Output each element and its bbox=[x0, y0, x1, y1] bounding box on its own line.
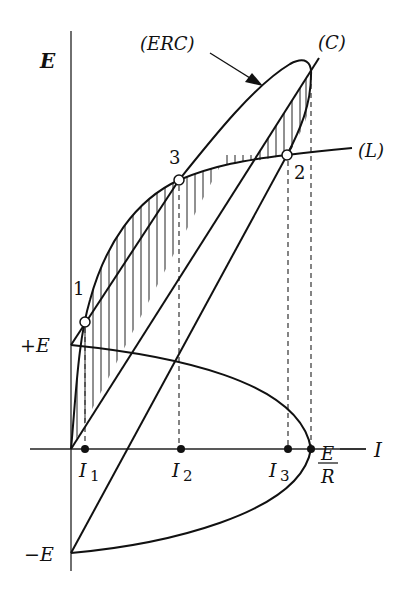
erc-label: (ERC) bbox=[140, 33, 195, 54]
svg-text:I: I bbox=[268, 459, 277, 481]
i3-dot bbox=[284, 445, 292, 453]
svg-text:I: I bbox=[78, 459, 87, 481]
point-2-label: 2 bbox=[294, 162, 305, 183]
svg-text:I: I bbox=[171, 459, 180, 481]
diagram-canvas: E I (ERC) (C) (L) 1 3 2 +E −E I 1 I 2 I … bbox=[0, 0, 407, 592]
i1-label: I 1 bbox=[78, 459, 100, 485]
point-1-label: 1 bbox=[73, 278, 84, 299]
i2-dot bbox=[177, 445, 185, 453]
svg-text:E: E bbox=[320, 443, 334, 464]
svg-text:2: 2 bbox=[183, 467, 193, 485]
svg-text:3: 3 bbox=[280, 467, 290, 485]
y-axis-label: E bbox=[39, 49, 56, 73]
x-axis-label: I bbox=[373, 438, 383, 462]
svg-text:R: R bbox=[320, 466, 335, 487]
point-2-marker bbox=[282, 150, 292, 160]
c-label: (C) bbox=[318, 32, 346, 53]
l-label: (L) bbox=[358, 140, 384, 161]
erc-arrow bbox=[210, 53, 263, 86]
i1-dot bbox=[81, 445, 89, 453]
i3-label: I 3 bbox=[268, 459, 290, 485]
curve-erc bbox=[179, 60, 311, 180]
svg-text:1: 1 bbox=[90, 467, 100, 485]
er-dot bbox=[307, 445, 315, 453]
hatched-region-left bbox=[77, 150, 251, 460]
point-1-marker bbox=[80, 317, 90, 327]
point-3-label: 3 bbox=[169, 147, 180, 168]
minus-e-label: −E bbox=[24, 543, 54, 565]
i2-label: I 2 bbox=[171, 459, 193, 485]
plus-e-label: +E bbox=[20, 334, 50, 356]
point-3-marker bbox=[174, 175, 184, 185]
curve-l bbox=[71, 148, 352, 449]
